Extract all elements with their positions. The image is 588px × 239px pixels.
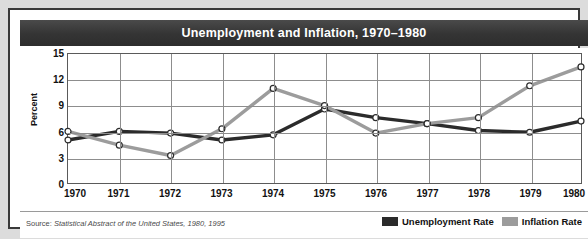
x-tick-label: 1973 [210, 188, 232, 199]
data-point-marker [578, 118, 584, 124]
legend-item: Inflation Rate [502, 216, 582, 227]
gridline-horizontal [68, 80, 581, 81]
chart-footer: Source: Statistical Abstract of the Unit… [20, 211, 588, 238]
chart-figure: Unemployment and Inflation, 1970–1980 Pe… [0, 0, 588, 239]
x-tick-label: 1974 [262, 188, 284, 199]
gridline-vertical [171, 54, 172, 183]
x-tick-label: 1972 [159, 188, 181, 199]
x-tick-label: 1977 [416, 188, 438, 199]
chart-panel: Unemployment and Inflation, 1970–1980 Pe… [8, 8, 580, 229]
legend-swatch-icon [382, 217, 398, 226]
plot-frame [67, 53, 582, 184]
gridline-vertical [223, 54, 224, 183]
source-citation: Statistical Abstract of the United State… [54, 219, 225, 228]
y-tick-label: 9 [44, 100, 64, 111]
source-note: Source: Statistical Abstract of the Unit… [26, 219, 225, 228]
gridline-horizontal [68, 106, 581, 107]
data-point-marker [578, 64, 584, 70]
legend-label: Inflation Rate [522, 216, 582, 227]
y-tick-label: 15 [44, 48, 64, 59]
x-axis-ticks: 1970197119721973197419751976197719781979… [67, 188, 582, 204]
gridline-vertical [326, 54, 327, 183]
gridline-vertical [429, 54, 430, 183]
x-tick-label: 1970 [64, 188, 86, 199]
data-point-marker [65, 137, 71, 143]
series-line [68, 109, 581, 140]
page-title: Unemployment and Inflation, 1970–1980 [182, 26, 427, 40]
x-tick-label: 1979 [519, 188, 541, 199]
gridline-horizontal [68, 133, 581, 134]
legend-swatch-icon [502, 217, 518, 226]
y-tick-label: 3 [44, 152, 64, 163]
x-tick-label: 1980 [563, 188, 585, 199]
gridline-vertical [377, 54, 378, 183]
x-tick-label: 1978 [468, 188, 490, 199]
chart-legend: Unemployment RateInflation Rate [382, 216, 582, 227]
legend-item: Unemployment Rate [382, 216, 494, 227]
gridline-vertical [480, 54, 481, 183]
y-tick-label: 12 [44, 74, 64, 85]
x-tick-label: 1971 [107, 188, 129, 199]
x-tick-label: 1976 [365, 188, 387, 199]
y-axis-ticks: 03691215 [42, 48, 64, 211]
y-tick-label: 6 [44, 126, 64, 137]
gridline-vertical [120, 54, 121, 183]
chart-title-bar: Unemployment and Inflation, 1970–1980 [20, 20, 588, 46]
plot-series-svg [68, 54, 581, 183]
y-tick-label: 0 [44, 179, 64, 190]
y-axis-title: Percent [29, 93, 39, 126]
gridline-vertical [274, 54, 275, 183]
x-tick-label: 1975 [313, 188, 335, 199]
gridline-vertical [532, 54, 533, 183]
chart-plot-area: Percent 03691215 19701971197219731974197… [20, 48, 588, 211]
source-prefix: Source: [26, 219, 52, 228]
gridline-horizontal [68, 159, 581, 160]
legend-label: Unemployment Rate [402, 216, 494, 227]
